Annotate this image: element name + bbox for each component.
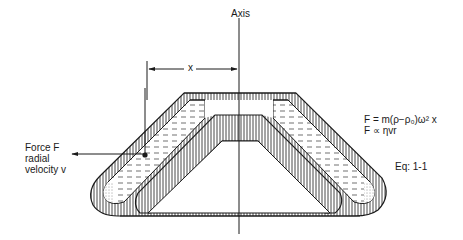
equation-proportional: F ∝ ηvr (364, 125, 437, 136)
centrifuge-diagram: Axis x Force F radial velocity v F = m(ρ… (0, 0, 463, 240)
equation-number: Eq: 1-1 (395, 161, 427, 172)
particle-dot (142, 152, 147, 157)
force-label: Force F radial velocity v (25, 142, 66, 175)
force-label-line-1: Force F (25, 142, 66, 153)
force-label-line-3: velocity v (25, 164, 66, 175)
axis-label: Axis (231, 8, 250, 19)
equation-force: F = m(ρ−ρ₀)ω² x (364, 114, 437, 125)
force-label-line-2: radial (25, 153, 66, 164)
dimension-label: x (186, 62, 195, 73)
equation-block: F = m(ρ−ρ₀)ω² x F ∝ ηvr (364, 114, 437, 136)
